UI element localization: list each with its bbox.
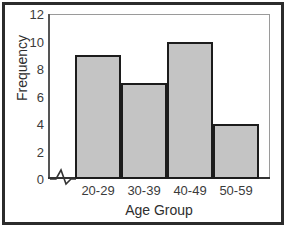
- y-tick-label: 2: [22, 145, 44, 158]
- bar: [213, 124, 259, 179]
- bar: [167, 42, 213, 180]
- bar: [121, 83, 167, 179]
- histogram-figure: 024681012 Frequency 20-2930-3940-4950-59…: [0, 0, 286, 227]
- bars-layer: [48, 14, 270, 179]
- bar: [75, 55, 121, 179]
- y-axis-title: Frequency: [14, 13, 30, 123]
- x-axis-title: Age Group: [48, 202, 270, 218]
- y-tick-label: 0: [22, 173, 44, 186]
- x-tick-label: 50-59: [206, 183, 266, 198]
